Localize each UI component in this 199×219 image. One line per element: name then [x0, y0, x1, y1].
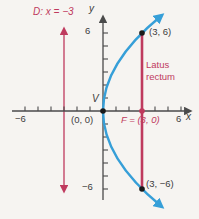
directrix-label: D: x = −3 [33, 6, 74, 17]
x-axis-tick-label-neg6: −6 [15, 113, 26, 124]
latus-rectum-label: Latus rectum [146, 59, 192, 83]
focus-dot [139, 108, 145, 114]
point-3-6-label: (3, 6) [149, 26, 171, 37]
y-axis-tick-label-neg6: −6 [82, 181, 93, 192]
y-axis-tick-label-6: 6 [85, 25, 90, 36]
vertex-dot [100, 108, 106, 114]
vertex-label: V [92, 93, 99, 104]
y-axis-label: y [89, 3, 94, 14]
parabola-figure: D: x = −3 y 6 (3, 6) Latus rectum V (0, … [0, 0, 199, 219]
origin-label: (0, 0) [71, 114, 93, 125]
focus-label: F = (3, 0) [121, 114, 160, 125]
point-3-6-dot [139, 30, 145, 36]
point-3-neg6-label: (3, −6) [146, 178, 174, 189]
point-3-neg6-dot [139, 186, 145, 192]
x-axis-tick-label-6: 6 [176, 113, 181, 124]
x-axis-label: x [186, 111, 191, 122]
